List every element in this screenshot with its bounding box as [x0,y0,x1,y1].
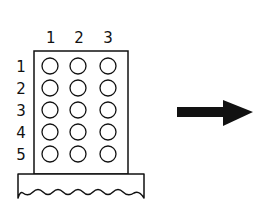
pegboard-base [18,174,144,198]
row-label-1: 1 [16,58,26,76]
hole-r3-c1 [42,102,58,118]
row-label-3: 3 [16,102,26,120]
hole-r1-c3 [100,58,116,74]
row-label-4: 4 [16,124,26,142]
column-label-3: 3 [103,29,113,47]
hole-r1-c1 [42,58,58,74]
hole-r4-c3 [100,124,116,140]
hole-r2-c2 [70,80,86,96]
hole-r2-c1 [42,80,58,96]
hole-r3-c3 [100,102,116,118]
column-label-2: 2 [74,29,84,47]
hole-grid [42,58,116,162]
hole-r5-c1 [42,146,58,162]
diagram-canvas: 1 2 3 1 2 3 4 5 [0,0,253,202]
column-label-1: 1 [46,29,56,47]
row-label-2: 2 [16,80,26,98]
right-arrow-icon [177,100,253,126]
hole-r4-c2 [70,124,86,140]
hole-r2-c3 [100,80,116,96]
hole-r3-c2 [70,102,86,118]
hole-r1-c2 [70,58,86,74]
hole-r5-c2 [70,146,86,162]
hole-r4-c1 [42,124,58,140]
row-label-5: 5 [16,146,26,164]
hole-r5-c3 [100,146,116,162]
